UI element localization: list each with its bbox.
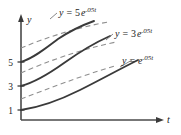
y-tick-label-5: 5 [8, 58, 13, 68]
curve2-exponent: .05t [142, 27, 154, 35]
curve2-coef: 3 [131, 28, 136, 39]
curve3-eq: = [129, 55, 135, 66]
curve3-exponent: .05t [143, 54, 155, 62]
curve2-lhs: y [114, 28, 120, 39]
curve1-coef: 5 [75, 7, 80, 18]
curve1-lhs: y [58, 7, 64, 18]
x-axis-label: t [167, 114, 170, 125]
y-tick-label-3: 3 [8, 82, 13, 92]
exponential-growth-figure: y t 1 3 5 y=5e.05t y=3e.05t [0, 0, 181, 135]
curve2-eq: = [122, 28, 128, 39]
curve1-eq: = [66, 7, 72, 18]
curve1-exponent: .05t [86, 6, 98, 14]
y-tick-label-1: 1 [8, 106, 13, 116]
curve3-lhs: y [121, 55, 127, 66]
y-axis-label: y [26, 14, 32, 25]
